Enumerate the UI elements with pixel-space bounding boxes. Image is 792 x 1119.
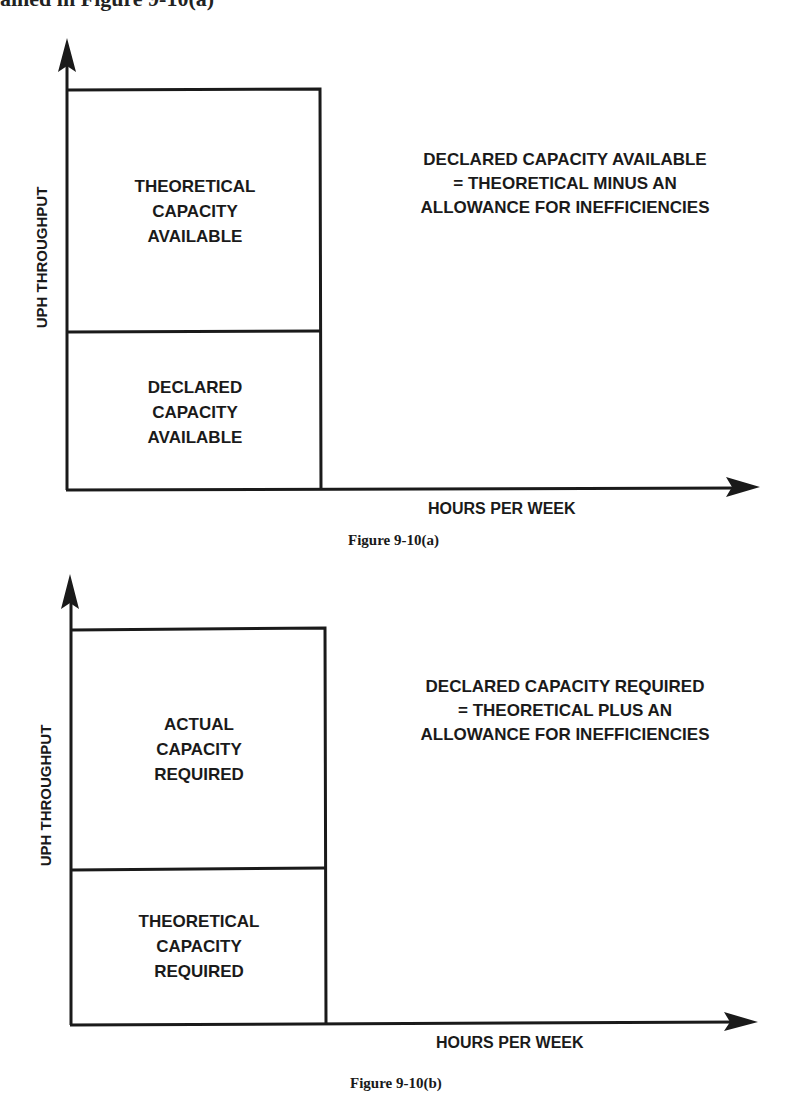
label-line: THEORETICAL [74, 909, 324, 934]
label-line: ACTUAL [74, 712, 324, 737]
label-line: AVAILABLE [70, 224, 320, 249]
figure-b-upper-box-label: ACTUAL CAPACITY REQUIRED [74, 712, 324, 787]
label-line: THEORETICAL [70, 174, 320, 199]
label-line: CAPACITY [74, 934, 324, 959]
note-line: ALLOWANCE FOR INEFFICIENCIES [365, 196, 765, 220]
figure-a-note: DECLARED CAPACITY AVAILABLE = THEORETICA… [365, 148, 765, 220]
note-line: DECLARED CAPACITY AVAILABLE [365, 148, 765, 172]
figure-a-upper-box-label: THEORETICAL CAPACITY AVAILABLE [70, 174, 320, 249]
figure-b-y-axis-label: UPH THROUGHPUT [37, 696, 54, 896]
figure-b-lower-box-label: THEORETICAL CAPACITY REQUIRED [74, 909, 324, 984]
note-line: DECLARED CAPACITY REQUIRED [365, 675, 765, 699]
label-line: CAPACITY [70, 400, 320, 425]
label-line: CAPACITY [70, 199, 320, 224]
label-line: REQUIRED [74, 762, 324, 787]
note-line: = THEORETICAL PLUS AN [365, 699, 765, 723]
figure-b-x-axis-label: HOURS PER WEEK [436, 1030, 584, 1055]
label-line: DECLARED [70, 375, 320, 400]
figure-a-lower-box-label: DECLARED CAPACITY AVAILABLE [70, 375, 320, 450]
note-line: ALLOWANCE FOR INEFFICIENCIES [365, 723, 765, 747]
label-line: AVAILABLE [70, 425, 320, 450]
label-line: REQUIRED [74, 959, 324, 984]
figure-a-caption: Figure 9-10(a) [348, 532, 439, 549]
note-line: = THEORETICAL MINUS AN [365, 172, 765, 196]
figure-b-note: DECLARED CAPACITY REQUIRED = THEORETICAL… [365, 675, 765, 747]
figure-b-caption: Figure 9-10(b) [350, 1075, 442, 1092]
figure-a-x-axis-label: HOURS PER WEEK [428, 496, 576, 521]
figure-a-y-axis-label: UPH THROUGHPUT [33, 158, 50, 358]
label-line: CAPACITY [74, 737, 324, 762]
